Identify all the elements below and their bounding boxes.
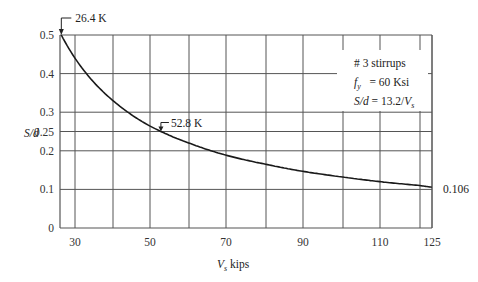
- annotation-end-label: 0.106: [443, 183, 469, 195]
- annotation-start: 26.4 K: [59, 12, 108, 35]
- annotation-mid-label: 52.8 K: [171, 117, 203, 129]
- annotation-start-label: 26.4 K: [75, 12, 107, 24]
- x-tick-label: 110: [372, 236, 389, 248]
- y-tick-label: 0.5: [40, 29, 55, 41]
- legend-line-stirrups: # 3 stirrups: [354, 57, 406, 70]
- y-tick-label: 0.1: [40, 183, 55, 195]
- x-tick-label: 125: [423, 236, 441, 248]
- x-tick-label: 90: [297, 236, 309, 248]
- chart: 00.10.20.250.30.40.530507090110125 26.4 …: [0, 0, 478, 282]
- x-tick-label: 50: [144, 236, 156, 248]
- y-tick-label: 0: [48, 222, 54, 234]
- x-axis-title: Vs kips: [217, 258, 250, 273]
- y-axis-title: S/d: [24, 127, 39, 139]
- y-tick-label: 0.3: [40, 106, 55, 118]
- x-tick-label: 30: [69, 236, 81, 248]
- y-tick-label: 0.4: [40, 68, 55, 80]
- annotation-mid: 52.8 K: [158, 117, 203, 132]
- y-tick-label: 0.2: [40, 145, 55, 157]
- x-tick-label: 70: [220, 236, 232, 248]
